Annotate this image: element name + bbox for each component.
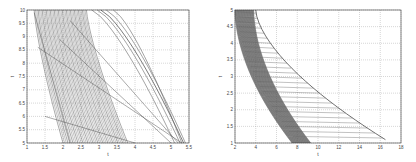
y-tick-label: 4 bbox=[230, 41, 233, 46]
x-tick-label: 18 bbox=[398, 145, 404, 150]
x-tick-label: 12 bbox=[336, 145, 342, 150]
y-tick-label: 6.5 bbox=[19, 101, 26, 106]
y-tick-label: 3 bbox=[230, 74, 233, 79]
x-tick-label: 3.5 bbox=[114, 145, 121, 150]
x-tick-label: 4.5 bbox=[150, 145, 157, 150]
x-tick-label: 1.5 bbox=[42, 145, 49, 150]
y-tick-label: 8 bbox=[22, 61, 25, 66]
chart-canvas: 11.522.533.544.555.555.566.577.588.599.5… bbox=[0, 0, 416, 162]
x-axis-label: t bbox=[317, 151, 319, 157]
x-axis-label: t bbox=[107, 151, 109, 157]
x-tick-label: 2 bbox=[62, 145, 65, 150]
x-tick-label: 2 bbox=[234, 145, 237, 150]
y-axis-label: t bbox=[9, 75, 15, 77]
x-tick-label: 4 bbox=[134, 145, 137, 150]
chart-right: 2468101214161811.522.533.544.55tt bbox=[217, 8, 404, 158]
y-tick-label: 3.5 bbox=[227, 57, 234, 62]
y-tick-label: 2.5 bbox=[227, 91, 234, 96]
y-tick-label: 7.5 bbox=[19, 74, 26, 79]
y-tick-label: 9 bbox=[22, 34, 25, 39]
x-tick-label: 4 bbox=[254, 145, 257, 150]
x-tick-label: 10 bbox=[315, 145, 321, 150]
y-tick-label: 10 bbox=[20, 8, 26, 13]
x-tick-label: 3 bbox=[98, 145, 101, 150]
x-tick-label: 8 bbox=[296, 145, 299, 150]
y-axis-label: t bbox=[217, 75, 223, 77]
x-tick-label: 5.5 bbox=[186, 145, 193, 150]
y-tick-label: 7 bbox=[22, 87, 25, 92]
chart-left: 11.522.533.544.555.555.566.577.588.599.5… bbox=[9, 8, 193, 158]
y-tick-label: 8.5 bbox=[19, 47, 26, 52]
x-tick-label: 6 bbox=[275, 145, 278, 150]
x-tick-label: 16 bbox=[378, 145, 384, 150]
x-tick-label: 1 bbox=[26, 145, 29, 150]
y-tick-label: 5 bbox=[230, 8, 233, 13]
y-tick-label: 2 bbox=[230, 107, 233, 112]
y-tick-label: 9.5 bbox=[19, 21, 26, 26]
x-tick-label: 5 bbox=[170, 145, 173, 150]
y-tick-label: 6 bbox=[22, 114, 25, 119]
x-tick-label: 14 bbox=[357, 145, 363, 150]
y-tick-label: 4.5 bbox=[227, 24, 234, 29]
y-tick-label: 1.5 bbox=[227, 124, 234, 129]
y-tick-label: 5.5 bbox=[19, 127, 26, 132]
x-tick-label: 2.5 bbox=[78, 145, 85, 150]
